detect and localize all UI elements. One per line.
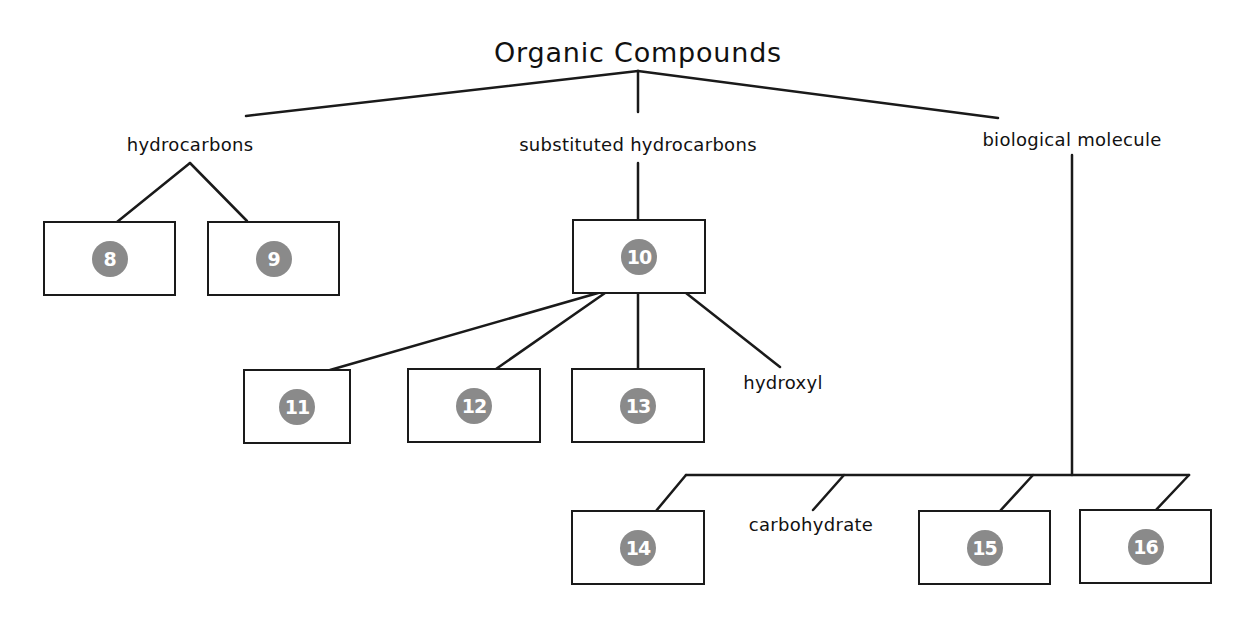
blank-box-10[interactable]: 10 [572,219,706,294]
label-biological-molecule: biological molecule [982,131,1161,149]
connector-10-to-11 [330,293,598,370]
blank-box-16[interactable]: 16 [1079,509,1212,584]
connector-bar-to-16 [1155,475,1189,511]
connector-bar-to-14 [656,475,686,511]
connector-bar-to-carbohydrate [813,475,844,510]
number-badge-11: 11 [279,389,315,425]
organic-compounds-concept-map: Organic Compounds hydrocarbons substitut… [0,0,1247,618]
label-hydroxyl: hydroxyl [743,374,823,392]
connector-hydrocarbons-to-9 [190,163,247,221]
number-badge-8: 8 [92,241,128,277]
connector-title-to-biological [638,71,998,118]
number-badge-10: 10 [621,239,657,275]
number-badge-14: 14 [620,530,656,566]
blank-box-9[interactable]: 9 [207,221,340,296]
number-badge-13: 13 [620,388,656,424]
label-substituted-hydrocarbons: substituted hydrocarbons [519,136,757,154]
blank-box-14[interactable]: 14 [571,510,705,585]
blank-box-11[interactable]: 11 [243,369,351,444]
number-badge-15: 15 [967,530,1003,566]
label-hydrocarbons: hydrocarbons [127,136,254,154]
label-carbohydrate: carbohydrate [749,516,873,534]
connector-hydrocarbons-to-8 [117,163,190,222]
diagram-title: Organic Compounds [494,39,782,66]
connector-10-to-12 [496,293,605,369]
blank-box-12[interactable]: 12 [407,368,541,443]
blank-box-15[interactable]: 15 [918,510,1051,585]
connector-10-to-hydroxyl [686,293,780,367]
blank-box-13[interactable]: 13 [571,368,705,443]
connector-title-to-hydrocarbons [246,71,638,116]
number-badge-9: 9 [256,241,292,277]
number-badge-16: 16 [1128,529,1164,565]
blank-box-8[interactable]: 8 [43,221,176,296]
connector-bar-to-15 [1000,475,1033,511]
number-badge-12: 12 [456,388,492,424]
